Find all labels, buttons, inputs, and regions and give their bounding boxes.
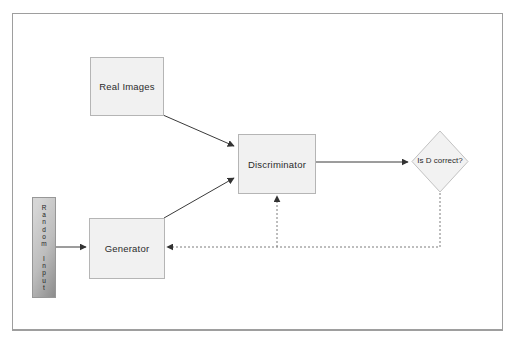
edge-real-images-to-discriminator <box>163 115 234 146</box>
node-generator-label: Generator <box>105 243 150 254</box>
node-random-input: R a n d o m I n p u t <box>32 197 56 298</box>
node-decision-label: Is D correct? <box>404 156 476 165</box>
edge-generator-to-discriminator <box>164 178 234 218</box>
edge-decision-to-generator <box>167 193 440 247</box>
node-discriminator: Discriminator <box>238 134 316 194</box>
node-random-input-label: R a n d o m I n p u t <box>41 204 46 291</box>
node-discriminator-label: Discriminator <box>248 159 306 170</box>
node-generator: Generator <box>89 218 165 279</box>
node-real-images-label: Real Images <box>99 81 155 92</box>
diagram-canvas: Real Images Discriminator Generator Is D… <box>0 0 519 347</box>
node-real-images: Real Images <box>90 57 164 116</box>
